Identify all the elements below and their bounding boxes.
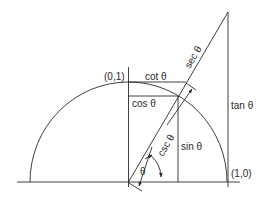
label-tan: tan θ: [231, 100, 254, 111]
label-angle: θ: [140, 166, 146, 177]
label-sin: sin θ: [181, 141, 203, 152]
unit-circle-diagram: (0,1) cot θ cos θ sin θ tan θ (1,0) θ se…: [0, 0, 269, 200]
label-point-top: (0,1): [104, 71, 125, 82]
csc-extension-top: [186, 83, 196, 90]
label-point-right: (1,0): [231, 168, 252, 179]
label-sec: sec θ: [182, 43, 204, 70]
angle-arc: [149, 154, 161, 177]
label-cos: cos θ: [132, 98, 156, 109]
label-cot: cot θ: [145, 71, 167, 82]
label-csc: csc θ: [155, 132, 177, 158]
